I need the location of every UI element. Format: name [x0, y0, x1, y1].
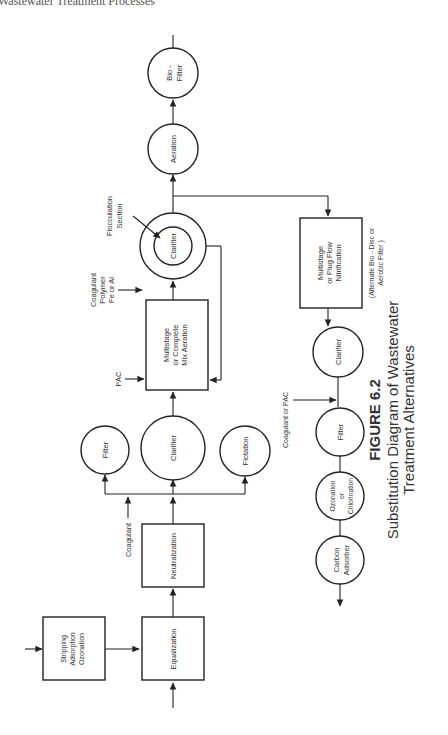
node-aeration-mix: Multistage or Complete Mix Aeration: [146, 300, 208, 390]
node-filter2: Filter: [316, 408, 364, 456]
flocculation-label: Section: [115, 203, 124, 228]
coag-polymer-label: Coagulant: [89, 272, 98, 307]
node-clarifier1: Clarifier: [141, 416, 205, 480]
caption-line: Treatment Alternatives: [400, 345, 417, 495]
node-ozonation: Ozonation or Chlorination: [316, 472, 364, 520]
alternate-label: Aerobic Filter ): [377, 240, 385, 286]
node-label: Chlorination: [347, 478, 354, 514]
node-label: or Plug Flow: [325, 242, 334, 284]
node-label: Clarifier: [334, 339, 343, 365]
node-label: Filter: [175, 64, 184, 81]
node-equalization: Equalization: [142, 617, 204, 680]
node-label: Stripping: [60, 635, 68, 663]
node-label: Mix Aeration: [180, 324, 189, 365]
coag-or-pac-label: Coagulant or PAC: [282, 392, 290, 448]
node-filter1: Filter: [81, 426, 129, 474]
node-clarifier3: Clarifier: [313, 327, 363, 377]
node-label: Adsorber: [342, 544, 351, 575]
node-label: Adsorption: [69, 632, 77, 666]
node-carbon-adsorber: Carbon Adsorber: [316, 536, 364, 584]
node-label: or Complete: [171, 325, 180, 366]
node-label: Carbon: [332, 548, 341, 573]
process-diagram: Stripping Adsorption Ozonation Equalizat…: [0, 0, 448, 735]
node-label: Aeration: [169, 135, 178, 163]
node-label: Nitrification: [334, 244, 343, 281]
node-neutralization: Neutralization: [142, 524, 204, 587]
node-label: Multistage: [162, 328, 171, 362]
coag-polymer-label: Polymer: [98, 276, 107, 304]
node-label: Flotation: [241, 437, 250, 466]
pac-label: PAC: [114, 371, 123, 386]
node-label: Clarifier: [169, 233, 178, 259]
node-biofilter: Bio - Filter: [148, 48, 198, 98]
node-clarifier2: Clarifier: [140, 213, 206, 279]
node-label: Ozonation: [329, 480, 336, 511]
node-label: Filter: [336, 423, 345, 440]
flocculation-label: Flocculation: [105, 196, 114, 236]
node-label: Neutralization: [169, 533, 178, 579]
node-stripping: Stripping Adsorption Ozonation: [43, 617, 105, 680]
node-label: Ozonation: [78, 633, 85, 665]
caption-line: Substitution Diagram of Wastewater: [384, 301, 401, 540]
coag-polymer-label: Fe or Al: [107, 277, 116, 303]
node-label: Equalization: [169, 629, 178, 670]
node-label: Clarifier: [169, 435, 178, 461]
node-label: Multistage: [316, 246, 325, 280]
node-label: or: [338, 492, 345, 499]
node-nitrification: Multistage or Plug Flow Nitrification: [300, 218, 362, 308]
node-label: Filter: [101, 441, 110, 458]
node-aeration: Aeration: [148, 124, 198, 174]
alternate-label: (Alternate Bio - Disc or: [368, 227, 376, 298]
node-label: Bio -: [165, 65, 174, 81]
figure-number: FIGURE 6.2: [366, 379, 383, 461]
coagulant-label: Coagulant: [124, 522, 133, 557]
node-flotation: Flotation: [220, 426, 270, 476]
figure-caption: FIGURE 6.2 Substitution Diagram of Waste…: [366, 301, 417, 540]
